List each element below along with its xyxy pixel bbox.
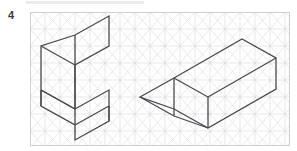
grid-line-diagonal-up	[212, 57, 290, 146]
grid-line-diagonal-down	[270, 12, 290, 35]
grid-line-diagonal-down	[120, 12, 238, 146]
grid-line-diagonal-down	[165, 12, 283, 146]
grid-line-diagonal-down	[30, 114, 58, 146]
wedge-prism-block-edge	[140, 97, 174, 116]
isometric-drawing-canvas	[30, 12, 290, 146]
wedge-prism-block-edge	[208, 58, 276, 97]
grid-line-diagonal-up	[47, 12, 165, 146]
top-rule-divider	[26, 1, 144, 4]
grid-line-diagonal-down	[30, 80, 88, 146]
l-shaped-block-edge	[41, 90, 75, 109]
question-number-label: 4	[8, 8, 22, 22]
grid-line-diagonal-up	[77, 12, 195, 146]
grid-line-diagonal-up	[137, 12, 255, 146]
grid-line-diagonal-down	[225, 12, 290, 86]
grid-line-diagonal-up	[242, 91, 290, 146]
grid-line-diagonal-down	[180, 12, 290, 137]
wedge-prism-block-edge	[174, 78, 208, 97]
grid-line-diagonal-down	[45, 12, 163, 146]
grid-line-diagonal-down	[135, 12, 253, 146]
grid-line-diagonal-down	[30, 12, 148, 146]
worksheet-page: 4	[0, 0, 297, 151]
grid-line-diagonal-up	[122, 12, 240, 146]
grid-line-diagonal-up	[107, 12, 225, 146]
grid-line-diagonal-down	[30, 131, 43, 146]
grid-layer	[30, 12, 290, 146]
grid-line-diagonal-down	[60, 12, 178, 146]
grid-line-diagonal-down	[150, 12, 268, 146]
grid-line-diagonal-up	[167, 12, 285, 146]
isometric-drawing-svg	[30, 12, 290, 146]
grid-line-diagonal-up	[32, 12, 150, 146]
grid-line-diagonal-down	[90, 12, 208, 146]
grid-line-diagonal-down	[30, 29, 133, 146]
